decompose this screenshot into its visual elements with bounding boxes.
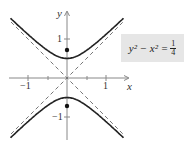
x-tick-label-1: 1 (103, 80, 108, 91)
focus-point-upper (65, 48, 69, 52)
x-tick-label-neg1: −1 (20, 80, 31, 91)
y-tick-label-1: 1 (57, 33, 62, 44)
equation-box: y² − x² = 1 4 (121, 34, 184, 62)
y-tick-label-neg1: −1 (52, 111, 63, 122)
y-axis-label: y (57, 7, 62, 19)
x-axis-label: x (127, 80, 132, 92)
focus-point-lower (65, 104, 69, 108)
equation-fraction: 1 4 (170, 40, 176, 57)
hyperbola-plot (0, 0, 194, 150)
equation-lhs: y² − x² = (129, 42, 168, 54)
